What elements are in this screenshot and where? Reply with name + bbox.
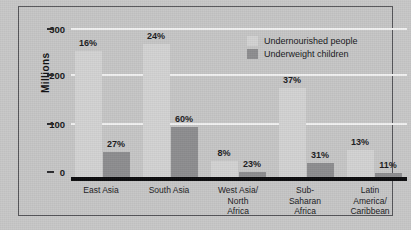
bar-east-asia-underweight[interactable] bbox=[103, 152, 130, 177]
x-axis-baseline bbox=[71, 177, 407, 181]
x-axis-label-south-asia: South Asia bbox=[139, 185, 199, 196]
y-tick-mark-100 bbox=[47, 123, 54, 125]
bar-group-south-asia: 24% 60% bbox=[139, 29, 199, 177]
bar-east-asia-undernourished[interactable] bbox=[75, 51, 102, 177]
bar-label-east-asia-undernourished: 16% bbox=[69, 39, 107, 48]
bar-sub-saharan-undernourished[interactable] bbox=[279, 88, 306, 177]
y-tick-mark-0 bbox=[47, 171, 54, 173]
bar-south-asia-undernourished[interactable] bbox=[143, 44, 170, 177]
chart-legend: Undernourished people Underweight childr… bbox=[247, 36, 358, 62]
x-axis-label-east-asia: East Asia bbox=[71, 185, 131, 196]
legend-item-underweight-children[interactable]: Underweight children bbox=[247, 49, 358, 59]
legend-swatch-undernourished-people bbox=[247, 36, 258, 46]
bar-label-west-asia-underweight: 23% bbox=[233, 160, 271, 169]
bar-label-sub-saharan-underweight: 31% bbox=[301, 151, 339, 160]
legend-label-underweight-children: Underweight children bbox=[264, 50, 349, 59]
x-axis-label-sub-saharan-africa: Sub- Saharan Africa bbox=[275, 185, 335, 217]
bar-label-east-asia-underweight: 27% bbox=[97, 140, 135, 149]
x-axis-label-latin-america-caribbean: Latin America/ Caribbean bbox=[339, 185, 401, 217]
x-axis-label-west-asia-north-africa: West Asia/ North Africa bbox=[205, 185, 271, 217]
chart-frame: Millions 300 200 100 0 16% 27% 24% 60% 8… bbox=[18, 6, 393, 216]
y-tick-mark-300 bbox=[47, 28, 54, 30]
bar-label-latin-america-underweight: 11% bbox=[369, 161, 407, 170]
legend-label-undernourished-people: Undernourished people bbox=[264, 37, 358, 46]
legend-swatch-underweight-children bbox=[247, 49, 258, 59]
bar-label-latin-america-undernourished: 13% bbox=[341, 138, 379, 147]
bar-sub-saharan-underweight[interactable] bbox=[307, 163, 334, 177]
bar-label-sub-saharan-undernourished: 37% bbox=[273, 76, 311, 85]
bar-label-south-asia-undernourished: 24% bbox=[137, 32, 175, 41]
bar-south-asia-underweight[interactable] bbox=[171, 127, 198, 177]
y-tick-mark-200 bbox=[47, 74, 54, 76]
bar-label-south-asia-underweight: 60% bbox=[165, 115, 203, 124]
bar-label-west-asia-undernourished: 8% bbox=[205, 149, 243, 158]
legend-item-undernourished-people[interactable]: Undernourished people bbox=[247, 36, 358, 46]
bar-group-east-asia: 16% 27% bbox=[71, 29, 131, 177]
